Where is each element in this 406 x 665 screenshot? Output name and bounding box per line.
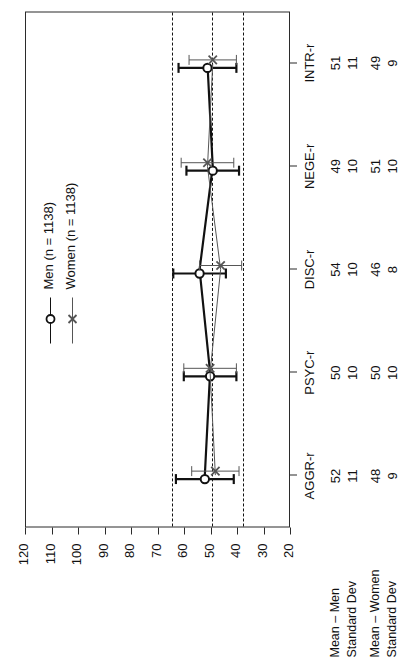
stats-cell-r1-c4: 11 (345, 28, 360, 98)
stats-cell-r2-c0: 48 (368, 440, 383, 510)
data-point-marker-circle (209, 166, 217, 174)
x-tick-mark-AGGR-r (290, 474, 297, 475)
x-category-label-PSYC-r: PSYC-r (302, 327, 317, 417)
stats-cell-r2-c1: 50 (368, 337, 383, 407)
y-tick-mark-100 (78, 527, 79, 534)
stats-cell-r1-c0: 11 (345, 440, 360, 510)
y-tick-label-100: 100 (69, 543, 84, 577)
y-tick-mark-30 (264, 527, 265, 534)
y-tick-label-30: 30 (255, 543, 270, 577)
series-line (207, 63, 220, 474)
stats-cell-r0-c0: 52 (328, 440, 343, 510)
y-tick-label-20: 20 (281, 543, 296, 577)
y-tick-label-80: 80 (122, 543, 137, 577)
y-tick-mark-110 (52, 527, 53, 534)
profile-chart-figure: 1201101009080706050403020 AGGR-rPSYC-rDI… (0, 0, 406, 665)
y-tick-label-40: 40 (228, 543, 243, 577)
data-point-marker-circle (203, 63, 211, 71)
y-tick-label-110: 110 (43, 543, 58, 577)
y-tick-mark-120 (25, 527, 26, 534)
stats-row-label-2: Mean – Women (368, 569, 382, 657)
stats-cell-r3-c3: 10 (385, 131, 400, 201)
x-tick-mark-PSYC-r (290, 371, 297, 372)
stats-cell-r1-c2: 10 (345, 234, 360, 304)
y-tick-mark-70 (158, 527, 159, 534)
stats-cell-r3-c1: 10 (385, 337, 400, 407)
y-tick-label-70: 70 (149, 543, 164, 577)
legend-cross-marker-icon (65, 311, 80, 326)
stats-cell-r1-c3: 10 (345, 131, 360, 201)
stats-row-label-3: Standard Dev (385, 581, 399, 657)
stats-cell-r0-c3: 49 (328, 131, 343, 201)
legend-label: Men (n = 1138) (41, 201, 56, 289)
data-point-marker-circle (201, 474, 209, 482)
y-tick-mark-80 (131, 527, 132, 534)
stats-row-label-0: Mean – Men (328, 588, 342, 657)
y-tick-label-60: 60 (175, 543, 190, 577)
y-tick-mark-20 (290, 527, 291, 534)
series-men (173, 62, 239, 483)
legend-circle-marker-icon (43, 311, 58, 326)
stats-row-label-1: Standard Dev (345, 581, 359, 657)
y-tick-mark-90 (105, 527, 106, 534)
rotated-figure-container: 1201101009080706050403020 AGGR-rPSYC-rDI… (0, 0, 406, 665)
y-tick-mark-50 (211, 527, 212, 534)
x-category-label-INTR-r: INTR-r (302, 18, 317, 108)
y-tick-mark-60 (184, 527, 185, 534)
stats-cell-r0-c2: 54 (328, 234, 343, 304)
y-tick-label-120: 120 (16, 543, 31, 577)
x-tick-mark-INTR-r (290, 62, 297, 63)
legend-label: Women (n = 1138) (63, 182, 78, 289)
y-tick-label-90: 90 (96, 543, 111, 577)
stats-cell-r0-c1: 50 (328, 337, 343, 407)
x-category-label-DISC-r: DISC-r (302, 224, 317, 314)
x-tick-mark-NEGE-r (290, 165, 297, 166)
stats-cell-r0-c4: 51 (328, 28, 343, 98)
stats-cell-r2-c3: 51 (368, 131, 383, 201)
stats-cell-r1-c1: 10 (345, 337, 360, 407)
stats-cell-r3-c0: 9 (385, 440, 400, 510)
y-tick-label-50: 50 (202, 543, 217, 577)
x-category-label-NEGE-r: NEGE-r (302, 121, 317, 211)
x-category-label-AGGR-r: AGGR-r (302, 430, 317, 520)
x-tick-mark-DISC-r (290, 268, 297, 269)
y-tick-mark-40 (237, 527, 238, 534)
stats-cell-r3-c4: 9 (385, 28, 400, 98)
stats-cell-r3-c2: 8 (385, 234, 400, 304)
stats-cell-r2-c4: 49 (368, 28, 383, 98)
series-women (181, 54, 241, 475)
stats-cell-r2-c2: 46 (368, 234, 383, 304)
